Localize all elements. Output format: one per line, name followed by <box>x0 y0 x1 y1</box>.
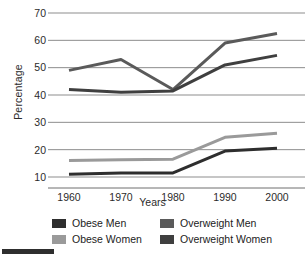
legend-swatch-icon <box>52 235 66 244</box>
legend-item-overweight-women[interactable]: Overweight Women <box>160 233 300 245</box>
line-chart: Percentage 70 60 50 40 30 20 10 1960 197… <box>0 0 305 258</box>
legend-item-overweight-men[interactable]: Overweight Men <box>160 217 300 229</box>
legend-item-obese-men[interactable]: Obese Men <box>52 217 160 229</box>
legend-label: Obese Men <box>72 217 126 229</box>
legend-item-obese-women[interactable]: Obese Women <box>52 233 160 245</box>
series-line <box>69 133 277 160</box>
legend-label: Overweight Women <box>180 233 272 245</box>
x-axis-title: Years <box>0 196 305 208</box>
scan-artifact-bar <box>2 249 54 254</box>
series-line <box>69 55 277 92</box>
legend-swatch-icon <box>160 235 174 244</box>
gridlines <box>48 13 305 177</box>
series-lines <box>69 34 277 175</box>
chart-legend: Obese Men Overweight Men Obese Women Ove… <box>52 215 300 247</box>
legend-swatch-icon <box>52 219 66 228</box>
legend-swatch-icon <box>160 219 174 228</box>
legend-label: Obese Women <box>72 233 142 245</box>
legend-label: Overweight Men <box>180 217 256 229</box>
